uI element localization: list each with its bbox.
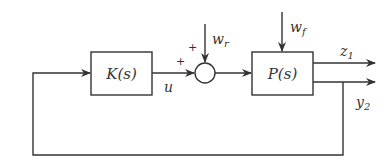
block-diagram: [0, 0, 389, 165]
z1-label: z1: [340, 44, 354, 61]
wf-label: wf: [290, 20, 306, 37]
wr-label: wr: [212, 32, 229, 49]
sum-sign-top: +: [188, 42, 197, 53]
plant-label: P(s): [252, 52, 313, 95]
u-label: u: [164, 80, 173, 94]
sum-sign-left: +: [176, 56, 185, 67]
controller-label: K(s): [91, 52, 152, 95]
summing-junction: [195, 63, 215, 83]
y2-label: y2: [356, 95, 370, 112]
